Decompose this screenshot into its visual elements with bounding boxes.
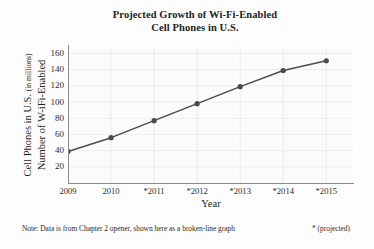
y-tick-label: 120 — [42, 81, 64, 90]
chart-title-line-1: Projected Growth of Wi-Fi-Enabled — [55, 9, 335, 22]
y-tick-label: 60 — [42, 130, 64, 139]
footnote-note-text: Note: Data is from Chapter 2 opener, sho… — [22, 224, 235, 233]
x-tick-label: 2009 — [45, 187, 91, 196]
x-tick-label: *2011 — [131, 187, 177, 196]
chart-title: Projected Growth of Wi-Fi-Enabled Cell P… — [55, 9, 335, 34]
data-point — [152, 118, 157, 123]
data-point — [108, 135, 113, 140]
y-axis-line — [68, 45, 69, 184]
data-point — [281, 68, 286, 73]
x-tick-label: *2012 — [174, 187, 220, 196]
x-tick-label: *2015 — [303, 187, 349, 196]
y-axis-title-line-2: Cell Phones in U.S. (in millions) — [21, 54, 35, 177]
y-tick-label: 40 — [42, 146, 64, 155]
x-tick-label: 2010 — [88, 187, 134, 196]
data-point — [195, 101, 200, 106]
x-tick-label: *2014 — [260, 187, 306, 196]
data-point — [324, 58, 329, 63]
plot-area — [68, 47, 353, 183]
y-tick-label: 100 — [42, 98, 64, 107]
x-axis-line — [68, 183, 354, 184]
x-axis-title: Year — [68, 198, 354, 209]
y-tick-label: 140 — [42, 65, 64, 74]
y-tick-label: 160 — [42, 49, 64, 58]
x-tick-label: *2013 — [217, 187, 263, 196]
line-chart-svg — [68, 47, 353, 183]
vertical-gridlines — [68, 47, 326, 183]
y-tick-label: 80 — [42, 114, 64, 123]
footnote: Note: Data is from Chapter 2 opener, sho… — [22, 224, 354, 233]
data-point — [238, 84, 243, 89]
chart-title-line-2: Cell Phones in U.S. — [55, 22, 335, 35]
chart-figure: Projected Growth of Wi-Fi-Enabled Cell P… — [0, 0, 374, 249]
y-axis-title-line-2-main: Cell Phones in U.S. — [22, 94, 33, 177]
footnote-projected-key: * (projected) — [312, 224, 354, 233]
y-tick-label: 20 — [42, 162, 64, 171]
y-axis-title-units: (in millions) — [24, 54, 33, 92]
